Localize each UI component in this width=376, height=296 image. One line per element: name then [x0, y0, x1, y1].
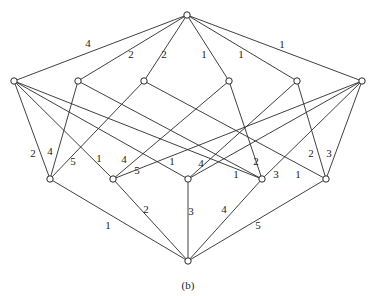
- edge-M6-L2: [113, 81, 362, 179]
- edge-weight-label: 1: [233, 168, 239, 180]
- edge-weight-label: 5: [134, 164, 140, 176]
- edge-T-M4: [187, 15, 229, 81]
- graph-node-L3: [185, 176, 191, 182]
- edge-weight-label: 3: [273, 168, 279, 180]
- edge-weight-label: 2: [308, 147, 314, 159]
- edge-L2-B: [113, 179, 188, 261]
- edge-T-M6: [187, 15, 362, 81]
- edge-weight-label: 2: [30, 147, 36, 159]
- edge-weight-label: 4: [221, 203, 227, 215]
- edge-weight-label: 1: [105, 219, 111, 231]
- graph-node-L4: [259, 176, 265, 182]
- edge-weight-label: 2: [128, 48, 134, 60]
- graph-node-M1: [11, 78, 17, 84]
- edge-weight-label: 5: [70, 155, 76, 167]
- figure-caption: (b): [182, 279, 195, 292]
- edge-weight-label: 1: [169, 155, 175, 167]
- edge-weight-label: 4: [47, 145, 53, 157]
- edge-weight-label: 2: [253, 155, 259, 167]
- edge-M1-L1: [14, 81, 50, 179]
- edge-weight-label: 4: [198, 157, 204, 169]
- edge-weight-label: 3: [326, 147, 332, 159]
- graph-edges: [14, 15, 362, 261]
- graph-node-M6: [359, 78, 365, 84]
- edge-weight-label: 4: [85, 37, 91, 49]
- edge-M6-L5: [326, 81, 362, 179]
- edge-weight-label: 1: [238, 48, 244, 60]
- edge-weight-label: 2: [161, 48, 167, 60]
- edge-weight-label: 5: [255, 219, 261, 231]
- edge-weight-label: 4: [121, 153, 127, 165]
- graph-node-B: [185, 258, 191, 264]
- graph-node-L2: [110, 176, 116, 182]
- edge-weight-label: 1: [201, 48, 207, 60]
- edge-L4-B: [188, 179, 262, 261]
- graph-node-M4: [226, 78, 232, 84]
- edge-M1-L3: [14, 81, 188, 179]
- edge-M5-L3: [188, 81, 297, 179]
- graph-node-L1: [47, 176, 53, 182]
- edge-weight-label: 1: [295, 168, 301, 180]
- edge-weight-label: 3: [188, 205, 194, 217]
- edge-weight-label: 1: [279, 38, 285, 50]
- graph-node-M3: [141, 78, 147, 84]
- edge-weight-label: 1: [96, 152, 102, 164]
- graph-node-L5: [323, 176, 329, 182]
- weighted-graph-diagram: 4221112114151424253312345 (b): [0, 0, 376, 296]
- edge-L1-B: [50, 179, 188, 261]
- graph-node-M5: [294, 78, 300, 84]
- edge-weight-label: 2: [143, 203, 149, 215]
- edge-M6-L4: [262, 81, 362, 179]
- edge-M6-L3: [188, 81, 362, 179]
- graph-node-T: [184, 12, 190, 18]
- graph-node-M2: [75, 78, 81, 84]
